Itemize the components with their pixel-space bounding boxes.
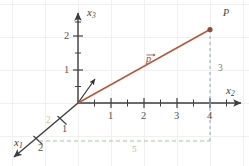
point-p-label: P xyxy=(223,8,229,18)
axis-x1-line xyxy=(14,103,78,157)
point-p-marker xyxy=(207,27,212,32)
axis-x1-label: x1 xyxy=(14,137,23,150)
axis-x2 xyxy=(78,98,241,108)
vector-p-line xyxy=(78,30,209,103)
axis-x2-ticklabel-4: 4 xyxy=(207,111,212,122)
axis-x1 xyxy=(14,103,78,157)
vector-diagram-figure: x3 x2 x1 2 1 1 2 3 4 1 2 2 5 3 P p xyxy=(0,0,249,166)
axis-x3-ticklabel-1: 1 xyxy=(64,65,69,76)
axis-x2-ticklabel-2: 2 xyxy=(141,111,146,122)
axis-x1-ticklabel-2: 2 xyxy=(38,143,43,154)
axis-x2-ticklabel-1: 1 xyxy=(108,111,113,122)
vector-arrow-overbar-icon xyxy=(146,52,156,57)
axis-x3-ticklabel-2: 2 xyxy=(64,31,69,42)
axis-x3 xyxy=(73,13,83,103)
axis-x3-label: x3 xyxy=(87,7,96,20)
axis-x2-label: x2 xyxy=(226,85,235,98)
vector-p-label: p xyxy=(146,54,151,65)
axis-x1-ticklabel-1: 1 xyxy=(62,124,67,135)
vertical-distance-label: 3 xyxy=(218,64,223,74)
origin-helper-arrow xyxy=(78,79,95,103)
horizontal-distance-label: 5 xyxy=(132,145,137,154)
axis-x2-ticklabel-3: 3 xyxy=(174,111,179,122)
diagonal-distance-label: 2 xyxy=(46,116,51,126)
